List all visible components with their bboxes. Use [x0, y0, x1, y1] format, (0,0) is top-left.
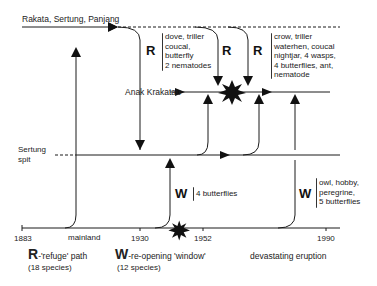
- spit-label: spit: [18, 155, 30, 165]
- legend-w: W-re-opening 'window': [115, 249, 206, 261]
- arrowhead: [135, 140, 145, 150]
- rakata-label: Rakata, Sertung, Panjang: [22, 14, 119, 24]
- w-label-1: W: [175, 187, 187, 201]
- legend-r: R-'refuge' path: [28, 249, 87, 261]
- r3-species: crow, triller waterhen, coucal nightjar,…: [274, 32, 336, 80]
- legend-explosion-icon: [168, 221, 190, 241]
- explosion-icon: [218, 80, 246, 105]
- sertung-anak-path-2: [243, 102, 259, 155]
- tick-1952: 1952: [194, 234, 212, 244]
- tick-1990: 1990: [317, 234, 335, 244]
- mainland-label: mainland: [68, 233, 100, 243]
- tick-1930: 1930: [131, 234, 149, 244]
- brace: [162, 33, 163, 71]
- legend-eruption: devastating eruption: [250, 251, 327, 261]
- arrowhead: [203, 94, 213, 104]
- r-label-2: R: [222, 44, 231, 58]
- brace: [271, 33, 272, 79]
- arrowhead: [262, 88, 272, 96]
- sertung-anak-path-1: [197, 102, 208, 155]
- w-path-2: [278, 160, 295, 228]
- arrowhead: [213, 76, 223, 86]
- mainland-path: [65, 55, 76, 228]
- arrowhead: [165, 158, 175, 168]
- r1-species: dove, triller coucal, butterfly 2 nemato…: [165, 32, 211, 70]
- arrowhead: [71, 47, 81, 57]
- w1-species: 4 butterflies: [196, 189, 237, 199]
- w-path-1: [155, 165, 170, 228]
- r-label-3: R: [253, 44, 262, 58]
- tick-1883: 1883: [14, 234, 32, 244]
- sertung-label: Sertung: [18, 145, 46, 155]
- w-label-2: W: [299, 187, 311, 201]
- arrowhead: [243, 76, 253, 86]
- brace: [316, 178, 317, 208]
- arrowhead: [290, 94, 300, 104]
- r-label-1: R: [146, 44, 155, 58]
- legend-w-count: (12 species): [117, 263, 161, 273]
- anak-krakatau-label: Anak Krakatau: [125, 87, 181, 97]
- brace: [193, 187, 194, 201]
- legend-r-count: (18 species): [28, 263, 72, 273]
- w2-species: owl, hobby, peregrine, 5 butterflies: [319, 178, 360, 207]
- arrowhead: [220, 151, 230, 159]
